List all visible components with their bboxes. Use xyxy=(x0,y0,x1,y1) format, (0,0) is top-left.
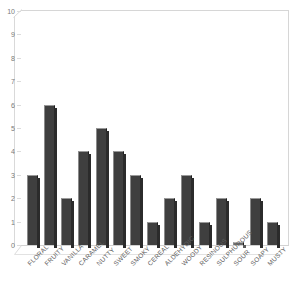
x-axis-labels: FLORALFRUITYVANILLACARAMELNUTTYSWEETSMOK… xyxy=(0,0,299,308)
bar-chart: aroma profile 012345678910 FLORALFRUITYV… xyxy=(0,0,299,308)
